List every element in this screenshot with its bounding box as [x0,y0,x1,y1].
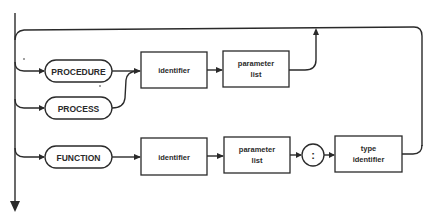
row1-parameter-label-1: parameter [238,59,274,68]
wire-process-merge [112,71,136,108]
keyword-process-label: PROCESS [58,104,100,114]
row2-identifier-label: identifier [158,153,190,162]
row1-identifier-label: identifier [158,66,190,75]
row2-parameter-list-box [224,137,290,173]
arrow-icon [39,105,45,111]
arrow-icon [313,28,319,35]
arrow-icon [39,68,45,74]
keyword-function-label: FUNCTION [57,153,101,163]
row2-parameter-label-1: parameter [239,145,275,154]
arrow-icon [329,152,335,158]
scan-dot [99,85,101,87]
row2-parameter-label-2: list [252,156,263,165]
wire-r1-exit [289,31,316,70]
type-identifier-label-1: type [361,144,376,153]
syntax-diagram: PROCEDURE PROCESS FUNCTION identifier pa… [0,0,437,218]
type-identifier-box [335,136,402,172]
scan-dot [23,58,25,60]
colon-label: : [311,149,315,161]
arrow-icon [217,153,224,159]
exit-arrow-icon [10,201,20,212]
row1-parameter-label-2: list [251,70,262,79]
arrow-icon [134,68,141,74]
arrow-icon [39,154,45,160]
arrow-icon [296,152,302,158]
wire-type-exit [402,145,422,154]
arrow-icon [216,67,223,73]
arrow-icon [134,154,141,160]
return-loop [15,27,422,146]
keyword-procedure-label: PROCEDURE [51,67,106,77]
type-identifier-label-2: identifier [353,155,385,164]
row1-parameter-list-box [223,51,289,87]
